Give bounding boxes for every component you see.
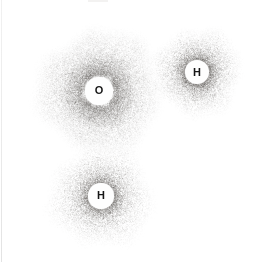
atom-label-hydrogen-2: H — [97, 190, 105, 201]
atom-nucleus-hydrogen-2: H — [88, 183, 113, 208]
page-edge-line — [1, 0, 2, 262]
electron-cloud-canvas — [0, 0, 264, 262]
top-crop-smudge — [88, 0, 108, 2]
atom-nucleus-hydrogen-1: H — [185, 60, 209, 84]
water-molecule-figure: O H H — [0, 0, 264, 262]
atom-label-hydrogen-1: H — [193, 67, 201, 78]
atom-label-oxygen: O — [95, 85, 104, 96]
atom-nucleus-oxygen: O — [85, 77, 112, 104]
